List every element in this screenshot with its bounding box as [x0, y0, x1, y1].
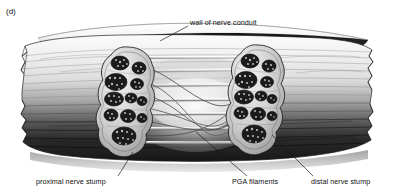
distal-nerve-stump [226, 45, 285, 155]
label-pga-filaments: PGA filaments [232, 178, 278, 185]
proximal-nerve-stump [96, 47, 155, 157]
panel-letter: (d) [6, 7, 16, 16]
figure-panel: (d) wall of nerve conduit proximal nerve… [0, 0, 395, 195]
nerve-conduit-illustration [0, 0, 395, 195]
label-proximal-nerve-stump: proximal nerve stump [36, 178, 106, 185]
label-distal-nerve-stump: distal nerve stump [311, 178, 370, 185]
label-wall-of-nerve-conduit: wall of nerve conduit [190, 19, 257, 26]
